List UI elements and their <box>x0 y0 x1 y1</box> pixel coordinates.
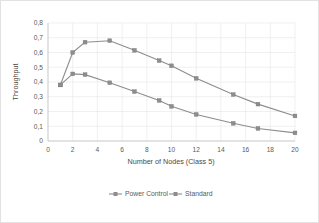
data-point-marker <box>157 99 161 103</box>
y-axis-tick-label: 0,7 <box>34 34 43 41</box>
y-axis-tick-label: 0,2 <box>34 108 43 115</box>
data-point-marker <box>256 127 260 131</box>
data-series-group <box>58 39 296 135</box>
data-point-marker <box>293 114 297 118</box>
chart-plot-area: 00,10,20,30,40,50,60,70,8 02468101214161… <box>1 1 319 223</box>
y-axis-tick-label: 0,8 <box>34 19 43 26</box>
x-axis-tick-label: 10 <box>168 146 176 153</box>
data-point-marker <box>71 72 75 76</box>
data-point-marker <box>133 48 137 52</box>
data-point-marker <box>293 131 297 135</box>
legend-marker-0 <box>114 192 118 196</box>
data-point-marker <box>157 59 161 63</box>
data-point-marker <box>170 104 174 108</box>
chart-container: 00,10,20,30,40,50,60,70,8 02468101214161… <box>0 0 319 223</box>
data-point-marker <box>83 73 87 77</box>
x-axis-tick-label: 0 <box>46 146 50 153</box>
data-point-marker <box>194 76 198 80</box>
data-point-marker <box>194 113 198 117</box>
x-axis-tick-label: 12 <box>193 146 201 153</box>
y-axis-tick-label: 0 <box>39 137 43 144</box>
data-point-marker <box>108 39 112 43</box>
x-axis-tick-label: 8 <box>145 146 149 153</box>
x-axis-tick-label: 2 <box>71 146 75 153</box>
data-point-marker <box>231 121 235 125</box>
legend-label-0: Power Control <box>125 190 169 197</box>
x-axis-ticks-group: 02468101214161820 <box>46 146 299 153</box>
y-axis-title: Throughput <box>11 64 20 101</box>
x-axis-tick-label: 16 <box>242 146 250 153</box>
y-axis-tick-label: 0,5 <box>34 64 43 71</box>
y-axis-ticks-group: 00,10,20,30,40,50,60,70,8 <box>34 19 44 144</box>
x-axis-title: Number of Nodes (Class 5) <box>127 157 214 166</box>
x-axis-tick-label: 14 <box>217 146 225 153</box>
x-axis-tick-label: 4 <box>96 146 100 153</box>
data-point-marker <box>58 83 62 87</box>
y-axis-tick-label: 0,6 <box>34 49 43 56</box>
data-point-marker <box>231 93 235 97</box>
data-point-marker <box>71 51 75 55</box>
data-point-marker <box>170 64 174 68</box>
legend-label-1: Standard <box>185 190 213 197</box>
x-axis-tick-label: 20 <box>291 146 299 153</box>
y-axis-tick-label: 0,3 <box>34 93 43 100</box>
data-point-marker <box>256 102 260 106</box>
data-point-marker <box>133 90 137 94</box>
data-point-marker <box>108 81 112 85</box>
line-chart-svg: 00,10,20,30,40,50,60,70,8 02468101214161… <box>1 1 319 223</box>
data-point-marker <box>83 40 87 44</box>
chart-legend: Power ControlStandard <box>109 190 213 197</box>
y-axis-tick-label: 0,4 <box>34 78 43 85</box>
x-axis-tick-label: 18 <box>267 146 275 153</box>
y-axis-tick-label: 0,1 <box>34 123 43 130</box>
x-axis-tick-label: 6 <box>120 146 124 153</box>
legend-marker-1 <box>174 192 178 196</box>
